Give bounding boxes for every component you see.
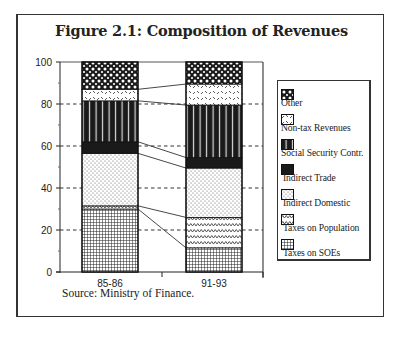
legend-label: Non-tax Revenues (281, 122, 369, 134)
y-tick-label: 40 (41, 183, 53, 194)
legend-item: Taxes on Population (281, 210, 369, 234)
legend-item: Taxes on SOEs (281, 235, 369, 259)
legend-item: Indirect Trade (281, 160, 369, 184)
legend: OtherNon-tax RevenuesSocial Security Con… (277, 80, 371, 261)
connector-line (138, 206, 186, 218)
legend-item: Other (281, 85, 369, 109)
bar-segment (186, 84, 242, 105)
grid-swatch-icon (281, 235, 369, 246)
solid-black-swatch-icon (281, 160, 369, 171)
crosshatch-swatch-icon (281, 85, 369, 96)
legend-item: Non-tax Revenues (281, 110, 369, 134)
legend-label: Indirect Domestic (283, 197, 369, 209)
stacked-bars (82, 62, 242, 272)
diagonal-dash-swatch-icon (281, 110, 369, 121)
legend-label: Taxes on Population (283, 222, 369, 234)
legend-label: Social Security Contr. (281, 147, 369, 159)
bar-segment (186, 248, 242, 272)
connector-line (138, 209, 186, 248)
connector-lines (138, 84, 186, 248)
dots-swatch-icon (281, 185, 369, 196)
y-tick-label: 0 (46, 267, 52, 278)
bar-segment (82, 153, 138, 206)
bar-segment (186, 168, 242, 217)
bar-segment (186, 62, 242, 84)
vertical-stripes-swatch-icon (281, 135, 369, 146)
x-tick-label: 91-93 (201, 278, 227, 289)
bar-segment (82, 142, 138, 154)
legend-label: Taxes on SOEs (283, 247, 369, 259)
bar-segment (186, 217, 242, 247)
bar-segment (82, 62, 138, 89)
legend-label: Indirect Trade (283, 172, 369, 184)
y-axis-ticks: 020406080100 (35, 57, 60, 278)
y-tick-label: 60 (41, 141, 53, 152)
bar-segment (82, 206, 138, 209)
legend-label: Other (281, 97, 369, 109)
bar-segment (186, 158, 242, 169)
bar-segment (82, 209, 138, 272)
legend-item: Indirect Domestic (281, 185, 369, 209)
wave-swatch-icon (281, 210, 369, 221)
bar-segment (82, 101, 138, 142)
bar-segment (186, 105, 242, 158)
y-tick-label: 100 (35, 57, 52, 68)
bar-segment (82, 89, 138, 101)
y-tick-label: 80 (41, 99, 53, 110)
legend-item: Social Security Contr. (281, 135, 369, 159)
source-note: Source: Ministry of Finance. (62, 287, 194, 299)
connector-line (138, 84, 186, 89)
y-tick-label: 20 (41, 225, 53, 236)
